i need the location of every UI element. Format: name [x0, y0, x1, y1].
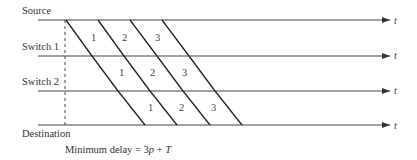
packet-label-2: 2 [179, 103, 184, 114]
time-axis-label: t [394, 86, 397, 96]
time-axis-label: t [394, 51, 397, 61]
node-label-switch2: Switch 2 [22, 77, 59, 88]
time-axis-label: t [394, 121, 397, 131]
hop-source-switch1 [66, 20, 189, 56]
packet-label-3: 3 [155, 33, 160, 44]
packet-label-2: 2 [122, 33, 127, 44]
packet-label-2: 2 [150, 68, 155, 79]
packet-label-1: 1 [91, 33, 96, 44]
packet-label-3: 3 [211, 103, 216, 114]
node-label-destination: Destination [22, 129, 70, 140]
node-label-switch1: Switch 1 [22, 42, 59, 53]
packet-label-3: 3 [182, 68, 187, 79]
minimum-delay-caption: Minimum delay = 3p + T [65, 145, 171, 156]
node-label-source: Source [22, 6, 51, 17]
packet-label-1: 1 [119, 68, 124, 79]
packet-label-1: 1 [148, 103, 153, 114]
time-axis-label: t [394, 16, 397, 26]
